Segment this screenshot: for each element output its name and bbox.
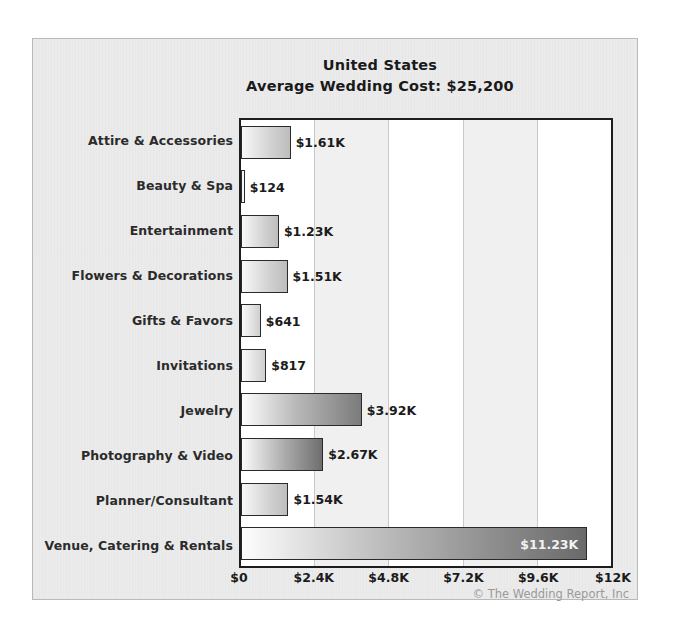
bar-row: $1.61K [241, 120, 611, 165]
bar-value-label: $817 [271, 358, 306, 373]
value-tick-label: $9.6K [518, 570, 559, 585]
value-tick-label: $7.2K [443, 570, 484, 585]
chart-subtitle: Average Wedding Cost: $25,200 [33, 76, 637, 97]
plot-area: $1.61K$124$1.23K$1.51K$641$817$3.92K$2.6… [239, 118, 613, 568]
category-label: Planner/Consultant [33, 478, 237, 523]
bar[interactable]: $1.61K [241, 126, 291, 159]
bar-value-label: $124 [250, 179, 285, 194]
category-label: Jewelry [33, 388, 237, 433]
bar[interactable]: $641 [241, 304, 261, 337]
bar[interactable]: $11.23K [241, 527, 587, 560]
bar-row: $641 [241, 298, 611, 343]
bar-rows: $1.61K$124$1.23K$1.51K$641$817$3.92K$2.6… [241, 120, 611, 566]
chart-frame: United States Average Wedding Cost: $25,… [32, 38, 638, 600]
bar-value-label: $1.23K [284, 224, 333, 239]
copyright-notice: © The Wedding Report, Inc [473, 587, 629, 601]
bar-value-label: $3.92K [367, 402, 416, 417]
bar[interactable]: $1.54K [241, 483, 288, 516]
category-label: Beauty & Spa [33, 163, 237, 208]
category-label: Photography & Video [33, 433, 237, 478]
chart-title: United States [33, 55, 637, 76]
bar-value-label: $1.61K [296, 135, 345, 150]
bar-row: $1.54K [241, 477, 611, 522]
category-axis-labels: Attire & AccessoriesBeauty & SpaEntertai… [33, 118, 237, 568]
category-label: Attire & Accessories [33, 118, 237, 163]
category-label: Venue, Catering & Rentals [33, 523, 237, 568]
bar[interactable]: $3.92K [241, 393, 362, 426]
value-tick-label: $4.8K [368, 570, 409, 585]
bar[interactable]: $1.51K [241, 260, 288, 293]
value-tick-label: $0 [230, 570, 247, 585]
bar[interactable]: $1.23K [241, 215, 279, 248]
bar-value-label: $1.51K [293, 269, 342, 284]
bar-row: $1.51K [241, 254, 611, 299]
bar[interactable]: $817 [241, 349, 266, 382]
bar[interactable]: $124 [241, 170, 245, 203]
category-label: Gifts & Favors [33, 298, 237, 343]
bar-row: $817 [241, 343, 611, 388]
bar-value-label: $641 [266, 313, 301, 328]
category-label: Invitations [33, 343, 237, 388]
category-label: Entertainment [33, 208, 237, 253]
bar-row: $2.67K [241, 432, 611, 477]
bar-value-label: $11.23K [520, 536, 578, 551]
bar-value-label: $1.54K [293, 492, 342, 507]
bar-row: $11.23K [241, 521, 611, 566]
bar-row: $3.92K [241, 388, 611, 433]
value-tick-label: $12K [595, 570, 631, 585]
bar-row: $124 [241, 165, 611, 210]
chart-title-block: United States Average Wedding Cost: $25,… [33, 55, 637, 97]
bar-row: $1.23K [241, 209, 611, 254]
value-tick-label: $2.4K [294, 570, 335, 585]
bar-value-label: $2.67K [328, 447, 377, 462]
bar[interactable]: $2.67K [241, 438, 323, 471]
category-label: Flowers & Decorations [33, 253, 237, 298]
